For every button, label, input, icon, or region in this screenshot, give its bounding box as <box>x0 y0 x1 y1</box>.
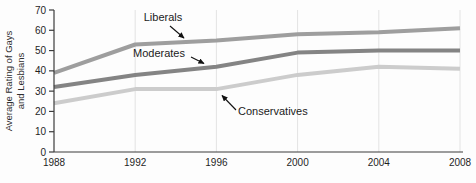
x-tick-label-2008: 2008 <box>449 157 472 168</box>
liberals-arrow <box>170 26 184 38</box>
y-axis-title-line2: and Lesbians <box>15 52 26 109</box>
moderates-arrow <box>191 57 204 64</box>
annotation-conservatives: Conservatives <box>222 96 308 118</box>
y-tick-label-30: 30 <box>35 86 47 97</box>
annotation-moderates: Moderates <box>133 47 204 64</box>
moderates-series-label: Moderates <box>133 47 185 59</box>
x-tick-label-2004: 2004 <box>368 157 391 168</box>
y-tick-label-70: 70 <box>35 5 47 16</box>
y-tick-label-10: 10 <box>35 126 47 137</box>
y-tick-label-20: 20 <box>35 106 47 117</box>
x-tick-label-2000: 2000 <box>286 157 309 168</box>
x-tick-label-1988: 1988 <box>43 157 66 168</box>
series-lines <box>54 28 460 103</box>
line-chart-svg: 010203040506070 198819921996200020042008… <box>0 0 476 183</box>
y-tick-label-0: 0 <box>40 147 46 158</box>
x-axis-tick-labels: 198819921996200020042008 <box>43 157 472 168</box>
series-line-conservatives <box>54 67 460 104</box>
liberals-series-label: Liberals <box>144 11 183 23</box>
x-tick-label-1992: 1992 <box>124 157 147 168</box>
y-axis-ticks: 010203040506070 <box>35 5 54 158</box>
x-tick-label-1996: 1996 <box>205 157 228 168</box>
conservatives-arrow <box>222 96 236 111</box>
conservatives-series-label: Conservatives <box>238 105 308 117</box>
annotation-liberals: Liberals <box>144 11 184 38</box>
y-axis-title-line1: Average Rating of Gays <box>3 30 14 131</box>
y-tick-label-50: 50 <box>35 45 47 56</box>
y-tick-label-40: 40 <box>35 65 47 76</box>
y-tick-label-60: 60 <box>35 25 47 36</box>
thermometer-ratings-chart: 010203040506070 198819921996200020042008… <box>0 0 476 183</box>
